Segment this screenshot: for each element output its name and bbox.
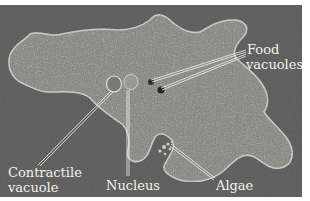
label-nucleus: Nucleus <box>106 178 160 193</box>
contractile-vacuole <box>107 76 122 92</box>
food-vacuole <box>158 87 165 94</box>
amoeba-micrograph: Food vacuoles Contractile vacuole Nucleu… <box>0 5 302 197</box>
label-contractile-line2: vacuole <box>7 180 59 195</box>
micrograph-frame: Food vacuoles Contractile vacuole Nucleu… <box>0 5 302 197</box>
nucleus <box>124 75 138 90</box>
label-food-line2: vacuoles <box>245 57 302 72</box>
label-contractile-line1: Contractile <box>8 165 82 180</box>
label-algae: Algae <box>215 178 254 193</box>
label-food-line1: Food <box>247 42 279 57</box>
